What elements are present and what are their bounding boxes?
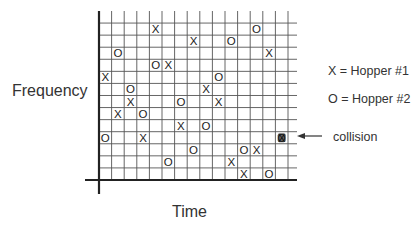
hopper-2-mark: O	[239, 144, 248, 156]
hopper-1-mark: X	[240, 168, 248, 180]
hopper-1-mark: X	[127, 96, 135, 108]
hopper-1-mark: X	[265, 47, 273, 59]
hopper-1-mark: X	[190, 35, 198, 47]
collision-mark: OX	[278, 132, 286, 144]
hopper-2-mark: O	[113, 47, 122, 59]
hopper-2-mark: O	[164, 156, 173, 168]
hopper-2-mark: O	[265, 168, 274, 180]
hopper-2-mark: O	[139, 108, 148, 120]
hopper-2-mark: O	[176, 96, 185, 108]
hopper-2-mark: O	[126, 83, 135, 95]
hopper-2-mark: O	[101, 132, 110, 144]
x-axis-label: Time	[172, 203, 207, 221]
hopper-1-mark: X	[253, 144, 261, 156]
hopper-2-mark: O	[151, 59, 160, 71]
hopper-1-mark: X	[164, 59, 172, 71]
hopper-1-mark: X	[215, 96, 223, 108]
hopper-2-mark: O	[227, 35, 236, 47]
legend-hopper-1: X = Hopper #1	[328, 64, 409, 78]
hopper-2-mark: O	[189, 144, 198, 156]
collision-label: collision	[333, 130, 377, 144]
hop-marks: XXXXXXXXXXXXXXOOOOOOOOOOOOOOOX	[101, 23, 286, 180]
hopper-1-mark: X	[114, 108, 122, 120]
hopper-1-mark: X	[177, 120, 185, 132]
frequency-hopping-diagram: XXXXXXXXXXXXXXOOOOOOOOOOOOOOOX	[0, 0, 415, 229]
hopper-1-mark: X	[227, 156, 235, 168]
svg-text:X: X	[278, 132, 285, 144]
hopper-2-mark: O	[252, 23, 261, 35]
hopper-2-mark: O	[214, 71, 223, 83]
hopper-1-mark: X	[152, 23, 160, 35]
collision-arrow	[297, 133, 322, 139]
legend-hopper-2: O = Hopper #2	[328, 92, 410, 106]
hopper-1-mark: X	[202, 83, 210, 95]
y-axis-label: Frequency	[12, 82, 88, 100]
hopper-1-mark: X	[139, 132, 147, 144]
hopper-1-mark: X	[101, 71, 109, 83]
hopper-2-mark: O	[202, 120, 211, 132]
